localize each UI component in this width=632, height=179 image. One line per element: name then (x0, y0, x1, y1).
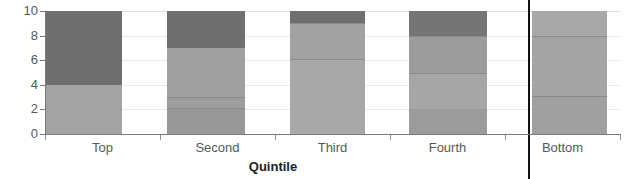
bar-segment (167, 97, 245, 109)
bar-segment (409, 73, 487, 110)
bar-segment (46, 85, 122, 134)
bar-segment (409, 109, 487, 134)
x-axis-label-second: Second (160, 141, 275, 155)
x-axis-tick (160, 135, 161, 140)
y-axis-labels: 10 8 6 4 2 0 (0, 0, 38, 179)
bar-segment (409, 36, 487, 73)
stacked-bar-chart: 10 8 6 4 2 0 Top Second Third Fourth Bot… (0, 0, 632, 179)
x-axis-tick (620, 135, 621, 140)
y-axis-line (45, 11, 46, 134)
y-axis-label: 4 (4, 78, 38, 91)
x-axis-label-third: Third (275, 141, 390, 155)
bar-segment (290, 23, 365, 60)
y-axis-tick (40, 60, 45, 61)
bar-top (46, 11, 122, 134)
bar-segment (167, 48, 245, 97)
x-axis-tick (390, 135, 391, 140)
x-axis-tick (275, 135, 276, 140)
plot-area (46, 11, 621, 134)
bar-segment (290, 60, 365, 134)
x-axis-label-top: Top (45, 141, 160, 155)
bar-segment (409, 11, 487, 36)
y-axis-tick (40, 85, 45, 86)
y-axis-tick (40, 36, 45, 37)
bar-second (167, 11, 245, 134)
y-axis-label: 2 (4, 102, 38, 115)
x-axis-title-text: Quintile (249, 160, 297, 174)
bar-segment (167, 11, 245, 48)
y-axis-label: 8 (4, 29, 38, 42)
y-axis-label: 0 (4, 127, 38, 140)
bar-segment (46, 11, 122, 85)
y-axis-label: 6 (4, 53, 38, 66)
x-axis-tick (45, 135, 46, 140)
y-axis-label: 10 (4, 4, 38, 17)
bar-fourth (409, 11, 487, 134)
bar-bottom (532, 11, 607, 134)
bar-third (290, 11, 365, 134)
bar-segment (532, 11, 607, 36)
x-axis-tick (505, 135, 506, 140)
x-axis-line (45, 134, 621, 135)
y-axis-tick (40, 109, 45, 110)
bar-segment (167, 109, 245, 134)
x-axis-label-bottom: Bottom (505, 141, 620, 155)
x-axis-title: Quintile (0, 160, 632, 174)
bar-segment (290, 11, 365, 23)
bar-segment (532, 97, 607, 134)
x-axis-label-fourth: Fourth (390, 141, 505, 155)
bar-segment (532, 36, 607, 98)
y-axis-tick (40, 11, 45, 12)
